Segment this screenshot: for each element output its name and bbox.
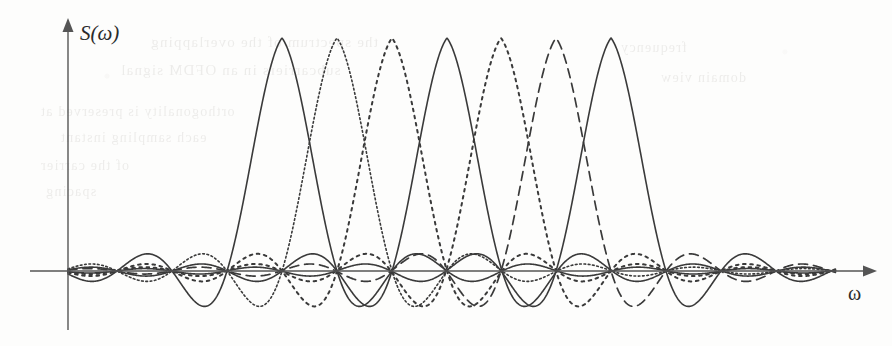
x-axis-label: ω (848, 282, 861, 305)
spectrum-plot (0, 0, 892, 346)
y-axis-label: S(ω) (80, 21, 119, 46)
curve-subcarrier-7 (68, 38, 835, 306)
figure-container: the spectrum of the overlappingsubcarrie… (0, 0, 892, 346)
y-axis-arrowhead (63, 18, 74, 32)
plot-axes (30, 18, 877, 330)
subcarrier-curves (68, 38, 835, 306)
x-axis-arrowhead (863, 266, 877, 277)
